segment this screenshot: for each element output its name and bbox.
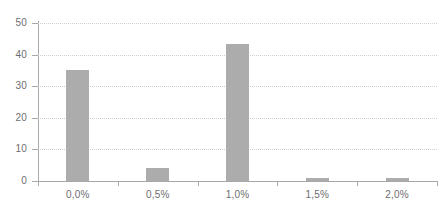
- gridline: [38, 23, 437, 24]
- x-axis-line: [38, 181, 437, 182]
- x-axis-tick-label: 1,0%: [198, 190, 278, 200]
- y-axis-tick-label: 30: [0, 81, 27, 91]
- y-axis-tick-label: 10: [0, 144, 27, 154]
- y-axis-tick-label: 20: [0, 113, 27, 123]
- x-axis-tick: [437, 181, 438, 186]
- x-axis-tick-label: 0,5%: [118, 190, 198, 200]
- y-axis-tick-label: 50: [0, 18, 27, 28]
- x-axis-tick: [357, 181, 358, 186]
- y-axis-tick-label: 40: [0, 50, 27, 60]
- x-axis-tick: [277, 181, 278, 186]
- x-axis-tick-label: 2,0%: [357, 190, 437, 200]
- x-axis-tick-label: 1,5%: [277, 190, 357, 200]
- bar: [146, 168, 169, 181]
- bar: [226, 44, 249, 181]
- x-axis-tick: [198, 181, 199, 186]
- x-axis-tick-label: 0,0%: [38, 190, 118, 200]
- bar: [66, 70, 89, 181]
- bar-chart: 01020304050 0,0%0,5%1,0%1,5%2,0%: [0, 0, 448, 217]
- x-axis-tick: [38, 181, 39, 186]
- x-axis-tick: [118, 181, 119, 186]
- y-axis-tick-label: 0: [0, 176, 27, 186]
- plot-area: [38, 23, 437, 181]
